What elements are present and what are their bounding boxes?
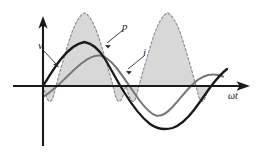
- leader-arrow-i: [126, 71, 132, 74]
- voltage-label: v: [38, 40, 43, 51]
- waveform-plot: [0, 0, 259, 153]
- omega-t-label: ωt: [228, 91, 238, 101]
- waveform-figure: v p i ωt: [0, 0, 259, 153]
- current-label: i: [143, 47, 146, 58]
- power-label: p: [122, 21, 128, 32]
- leader-line-p: [107, 30, 123, 43]
- leader-line-v: [44, 51, 57, 65]
- leader-arrow-p: [105, 45, 111, 48]
- leader-line-i: [128, 56, 144, 69]
